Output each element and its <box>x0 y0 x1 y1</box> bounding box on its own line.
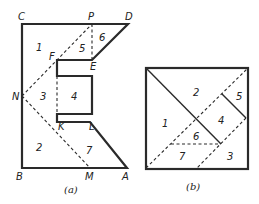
piece-a-2: 2 <box>36 142 42 153</box>
point-a: A <box>121 171 129 182</box>
piece-a-6: 6 <box>99 32 105 43</box>
point-l: L <box>89 121 95 132</box>
figure-b: 1 2 3 4 5 6 7 (b) <box>146 68 248 192</box>
piece-b-3: 3 <box>227 151 233 162</box>
piece-a-4: 4 <box>71 91 77 102</box>
dash-n-m <box>22 96 90 168</box>
point-m: M <box>85 171 94 182</box>
piece-a-7: 7 <box>86 145 93 156</box>
piece-b-1: 1 <box>162 118 168 129</box>
piece-b-7: 7 <box>179 151 186 162</box>
piece-b-5: 5 <box>236 91 242 102</box>
line-piece5 <box>222 94 246 118</box>
piece-a-3: 3 <box>40 91 46 102</box>
point-e: E <box>90 61 97 72</box>
piece-b-4: 4 <box>218 115 224 126</box>
piece-a-5: 5 <box>79 43 85 54</box>
point-n: N <box>12 91 20 102</box>
point-d: D <box>125 11 133 22</box>
point-p: P <box>88 11 95 22</box>
point-b: B <box>16 171 23 182</box>
figure-a: C P D E F N K L B M A 1 2 3 4 5 6 7 (a) <box>12 11 133 195</box>
piece-a-1: 1 <box>36 42 42 53</box>
caption-b: (b) <box>186 181 200 192</box>
tangram-diagram: C P D E F N K L B M A 1 2 3 4 5 6 7 (a) … <box>0 0 259 204</box>
point-c: C <box>18 11 25 22</box>
piece-b-2: 2 <box>193 87 199 98</box>
point-f: F <box>49 51 55 62</box>
caption-a: (a) <box>64 184 78 195</box>
piece-b-6: 6 <box>193 131 199 142</box>
